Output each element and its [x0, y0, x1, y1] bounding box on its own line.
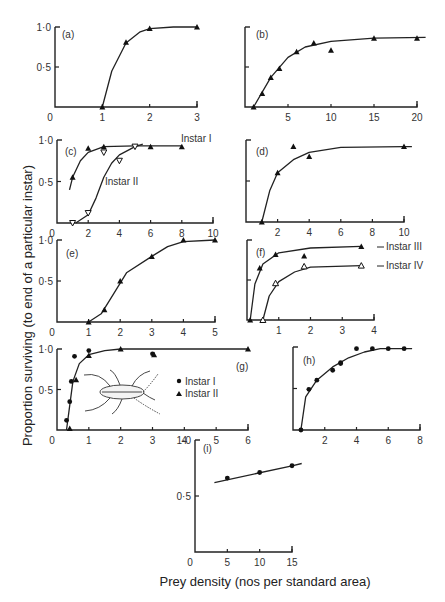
data-point-circle	[86, 348, 91, 353]
x-tick-label: 6	[148, 228, 154, 239]
x-tick-label: 2	[85, 228, 91, 239]
x-tick-label: 2	[117, 327, 123, 338]
panel-label: (a)	[62, 29, 74, 40]
x-tick-label: 8	[417, 435, 423, 446]
data-point-circle	[64, 418, 69, 423]
x-tick-label: 2	[322, 435, 328, 446]
data-point-triangle	[70, 174, 76, 180]
fit-curve	[263, 266, 361, 320]
series-label-instar-2: Instar II	[105, 176, 138, 187]
data-point-triangle	[328, 47, 334, 53]
panel-e: 0·51·0012345(e)	[39, 235, 219, 338]
x-tick-label: 8	[179, 228, 185, 239]
panel-a: 0·51·00123(a)	[37, 22, 201, 123]
x-tick-label: 15	[286, 557, 298, 568]
x-tick-label: 0	[47, 112, 53, 123]
x-tick-label: 3	[149, 327, 155, 338]
series-label-instar-3: Instar III	[386, 241, 422, 252]
panel-label: (h)	[303, 355, 315, 366]
x-tick-label: 4	[181, 327, 187, 338]
data-point-open-triangle-down	[116, 158, 122, 164]
data-point-triangle	[259, 90, 265, 96]
y-tick-label: 0·5	[177, 491, 192, 502]
panel-label: (b)	[256, 29, 268, 40]
figure-canvas: 0·51·00123(a)5101520(b)0·51·00246810(c)I…	[0, 0, 445, 602]
x-tick-label: 5	[213, 435, 219, 446]
data-point-triangle	[149, 253, 155, 259]
x-tick-label: 2	[275, 227, 281, 238]
x-tick-label: 3	[339, 325, 345, 336]
data-point-triangle	[86, 352, 92, 358]
data-point-circle	[314, 378, 319, 383]
panel-i: 0·51·0051015(i)	[177, 435, 302, 568]
x-tick-label: 1	[276, 325, 282, 336]
insect-illustration	[84, 370, 160, 414]
data-point-open-triangle	[301, 263, 307, 269]
axes	[195, 440, 292, 552]
x-tick-label: 2	[118, 435, 124, 446]
y-tick-label: 1·0	[39, 344, 54, 355]
y-tick-label: 1·0	[37, 22, 52, 33]
data-point-open-triangle-down	[132, 144, 138, 150]
x-tick-label: 3	[150, 435, 156, 446]
x-tick-label: 8	[370, 227, 376, 238]
data-point-triangle	[290, 144, 296, 150]
x-tick-label: 2	[308, 325, 314, 336]
x-tick-label: 6	[245, 435, 251, 446]
data-point-circle	[225, 476, 230, 481]
x-tick-label: 10	[254, 557, 266, 568]
data-point-circle	[338, 361, 343, 366]
x-tick-label: 0	[187, 557, 193, 568]
x-tick-label: 10	[207, 228, 219, 239]
panel-label: (d)	[256, 146, 268, 157]
data-point-circle	[306, 387, 311, 392]
x-tick-label: 10	[325, 112, 337, 123]
axes	[57, 240, 215, 322]
axes	[55, 27, 197, 107]
x-tick-label: 15	[368, 112, 380, 123]
panel-label: (g)	[236, 361, 248, 372]
axes	[246, 140, 404, 222]
data-point-circle	[72, 354, 77, 359]
data-point-circle	[299, 428, 304, 433]
data-point-open-triangle-down	[101, 150, 107, 156]
y-tick-label: 0·5	[39, 177, 54, 188]
data-point-triangle	[101, 307, 107, 313]
data-point-triangle	[85, 145, 91, 151]
fit-curve	[67, 349, 249, 430]
data-point-circle	[370, 346, 375, 351]
x-tick-label: 1	[86, 327, 92, 338]
data-point-triangle	[306, 153, 312, 159]
panel-f: 1234(f)Instar IIIInstar IV	[247, 240, 424, 336]
x-tick-label: 0	[49, 435, 55, 446]
panel-d: 246810(d)	[246, 140, 412, 238]
x-tick-label: 5	[225, 557, 231, 568]
series-label-instar-4: Instar IV	[386, 260, 424, 271]
x-tick-label: 4	[306, 227, 312, 238]
x-tick-label: 5	[285, 112, 291, 123]
y-axis-label: Proportion surviving (to end of a partic…	[20, 161, 35, 451]
x-tick-label: 5	[212, 327, 218, 338]
data-point-circle	[354, 346, 359, 351]
data-point-circle	[330, 368, 335, 373]
fit-curve	[89, 240, 215, 322]
fit-curve	[102, 27, 197, 107]
y-tick-label: 1·0	[39, 135, 54, 146]
axes	[245, 27, 417, 107]
y-tick-label: 1·0	[39, 235, 54, 246]
x-tick-label: 6	[338, 227, 344, 238]
data-point-circle	[67, 399, 72, 404]
fit-curve	[301, 349, 412, 430]
x-tick-label: 6	[385, 435, 391, 446]
legend-instar-1: Instar I	[185, 376, 216, 387]
panel-label: (e)	[66, 248, 78, 259]
panel-b: 5101520(b)	[245, 27, 426, 123]
x-tick-label: 20	[411, 112, 423, 123]
data-point-circle	[402, 346, 407, 351]
data-point-open-triangle-down	[85, 211, 91, 217]
data-point-circle	[290, 463, 295, 468]
x-tick-label: 3	[194, 112, 200, 123]
x-tick-label: 4	[117, 228, 123, 239]
panel-label: (c)	[65, 146, 77, 157]
y-tick-label: 0·5	[39, 385, 54, 396]
